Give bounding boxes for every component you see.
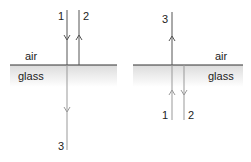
air-label: air (215, 50, 228, 62)
ray-1-label: 1 (162, 109, 168, 121)
ray-2-label: 2 (83, 10, 89, 22)
right-panel: 3 1 2 air glass (133, 12, 243, 121)
left-panel: 1 2 3 air glass (10, 10, 117, 152)
reflection-transmission-diagram: 1 2 3 air glass 3 1 2 air glass (0, 0, 251, 162)
air-label: air (25, 50, 38, 62)
glass-label: glass (208, 70, 234, 82)
ray-1-label: 1 (58, 10, 64, 22)
ray-2-label: 2 (188, 109, 194, 121)
glass-label: glass (18, 70, 44, 82)
ray-3-label: 3 (58, 140, 64, 152)
ray-3-label: 3 (162, 13, 168, 25)
